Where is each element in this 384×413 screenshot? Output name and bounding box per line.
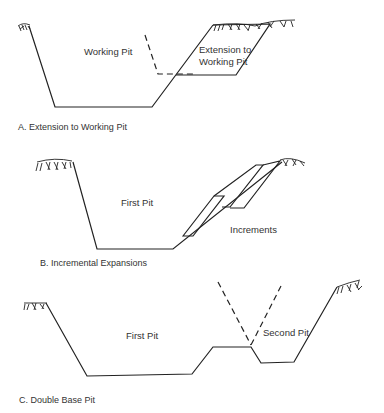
working-pit-outline [29,25,213,107]
caption-a: A. Extension to Working Pit [18,122,127,132]
first-pit-outline [73,162,282,249]
label-extension-line2: Working Pit [199,56,248,67]
label-extension-line1: Extension to [199,44,251,55]
label-first-pit-c: First Pit [126,330,159,341]
label-second-pit: Second Pit [263,327,309,338]
ground-hatch-right-b [280,159,305,166]
label-working-pit: Working Pit [84,46,133,57]
increment-3 [230,161,280,208]
increment-2 [214,165,263,207]
panel-a: Working Pit Extension to Working Pit A. … [18,20,295,132]
working-pit-dashed-boundary [145,35,193,74]
ground-hatch-right-c [337,280,362,294]
panel-b: First Pit Increments B. Incremental Expa… [36,159,305,268]
increment-1 [183,196,224,236]
caption-b: B. Incremental Expansions [40,258,148,268]
ground-hatch-left-c [24,303,47,310]
label-first-pit: First Pit [121,197,154,208]
label-increments: Increments [230,224,277,235]
ground-hatch-left-a [18,24,30,31]
ground-hatch-right-a [213,20,295,31]
ground-hatch-left-b [36,159,72,171]
panel-c: First Pit Second Pit C. Double Base Pit [19,280,362,405]
pit-expansion-diagram: Working Pit Extension to Working Pit A. … [0,0,384,413]
dashed-line-left [218,282,251,345]
caption-c: C. Double Base Pit [19,395,96,405]
